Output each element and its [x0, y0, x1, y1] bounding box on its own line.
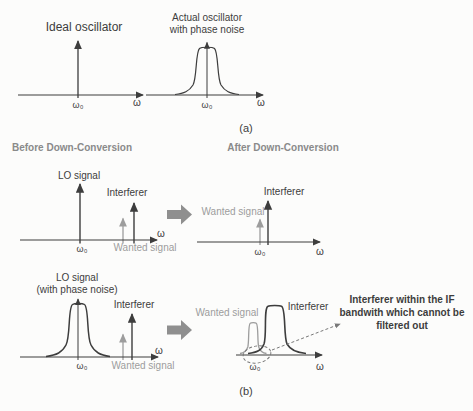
panel-before-noisy-lo: LO signal (with phase noise) Interferer …: [20, 272, 175, 371]
interferer-label: Interferer: [107, 187, 148, 198]
annotation-dashed-arrow: [272, 324, 340, 350]
caption-a: (a): [239, 122, 252, 134]
interferer-label: Interferer: [264, 186, 305, 197]
omega-label: ω: [316, 246, 324, 257]
omega-zero-label: ω₀: [77, 361, 88, 371]
panel-after-noisy-lo: Wanted signal Interferer ω₀ ω Interferer…: [196, 294, 465, 372]
diagram-canvas: Ideal oscillator ω₀ ω Actual oscillator …: [0, 0, 473, 411]
omega-zero-label: ω₀: [77, 244, 88, 254]
right-arrow-icon: [167, 320, 192, 340]
actual-oscillator-title-line1: Actual oscillator: [172, 12, 243, 23]
wanted-signal-label: Wanted signal: [114, 242, 177, 253]
panel-actual-oscillator: Actual oscillator with phase noise ω₀ ω: [146, 12, 265, 110]
omega-label: ω: [257, 97, 265, 108]
annotation-line1: Interferer within the IF: [349, 294, 454, 305]
omega-label: ω: [133, 97, 141, 108]
figure-oscillator-phase-noise: Ideal oscillator ω₀ ω Actual oscillator …: [0, 0, 473, 411]
ideal-oscillator-title: Ideal oscillator: [46, 20, 123, 34]
wanted-signal-bell-curve: [240, 323, 267, 354]
wanted-signal-label: Wanted signal: [112, 360, 175, 371]
omega-label: ω: [155, 345, 163, 356]
actual-oscillator-title-line2: with phase noise: [169, 24, 245, 35]
omega-label: ω: [316, 361, 324, 372]
omega-zero-label: ω₀: [73, 100, 84, 110]
interferer-label: Interferer: [114, 299, 155, 310]
panel-after-ideal-lo: Interferer Wanted signal ω₀ ω: [197, 186, 324, 257]
annotation-line3: filtered out: [376, 320, 428, 331]
wanted-signal-label: Wanted signal: [196, 307, 259, 318]
omega-zero-label: ω₀: [202, 100, 213, 110]
wanted-signal-label: Wanted signal: [202, 206, 265, 217]
before-down-conversion-header: Before Down-Conversion: [12, 142, 132, 153]
panel-ideal-oscillator: Ideal oscillator ω₀ ω: [18, 20, 143, 110]
panel-before-ideal-lo: LO signal Interferer ω ω₀ Wanted signal: [20, 170, 177, 254]
interferer-label: Interferer: [288, 301, 329, 312]
after-down-conversion-header: After Down-Conversion: [227, 142, 339, 153]
caption-b: (b): [239, 385, 252, 397]
annotation-line2: bandwith which cannot be: [340, 307, 465, 318]
lo-phase-noise-label: (with phase noise): [36, 284, 117, 295]
omega-label: ω: [157, 228, 165, 239]
omega-zero-label: ω₀: [255, 247, 266, 257]
lo-signal-label: LO signal: [56, 272, 98, 283]
lo-signal-label: LO signal: [58, 170, 100, 181]
right-arrow-icon: [167, 205, 192, 225]
